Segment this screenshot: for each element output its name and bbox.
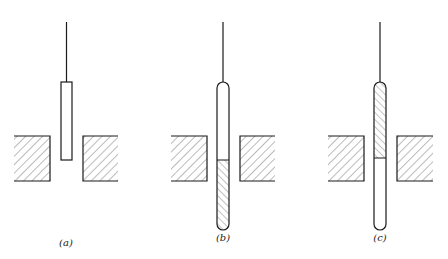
right-pole-block [83,136,118,181]
panel-b: (b) [171,22,275,243]
panel-label-b: (b) [216,232,230,243]
panel-label-a: (a) [59,237,73,248]
left-pole-block [14,136,50,181]
sample-rod [61,82,72,160]
left-pole-block [171,136,207,181]
panel-a: (a) [14,22,118,248]
magnetic-susceptibility-diagram: (a) (b) (c) [0,0,448,259]
sample-fill-top [374,82,386,158]
panel-label-c: (c) [373,232,387,243]
panel-c: (c) [328,22,433,243]
right-pole-block [240,136,275,181]
right-pole-block [397,136,433,181]
left-pole-block [328,136,364,181]
sample-fill-bottom [217,160,229,230]
